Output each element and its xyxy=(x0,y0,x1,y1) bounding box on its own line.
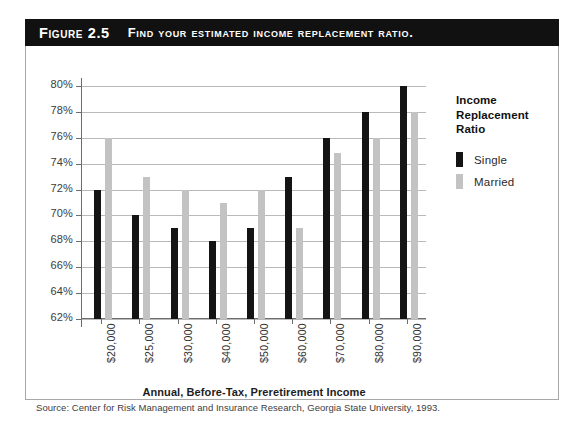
source-note: Source: Center for Risk Management and I… xyxy=(36,402,440,413)
x-tick-label: $80,000 xyxy=(373,323,385,363)
legend-swatch-married xyxy=(456,174,463,189)
y-axis-tick xyxy=(76,138,82,139)
bar-single xyxy=(285,177,292,319)
figure-number-label: Figure 2.5 xyxy=(39,25,110,41)
chart-plot-area: 80%78%76%74%72%70%68%66%64%62% $20,000$2… xyxy=(82,86,426,319)
chart-legend: Income Replacement Ratio SingleMarried xyxy=(456,93,556,193)
y-axis-tick xyxy=(76,190,82,191)
legend-title-line-2: Replacement xyxy=(456,108,556,123)
x-axis-tick xyxy=(101,319,102,324)
gridline-80: 80% xyxy=(82,86,426,87)
x-tick-label: $20,000 xyxy=(105,323,117,363)
x-axis-tick xyxy=(139,319,140,324)
x-axis-tick xyxy=(178,319,179,324)
legend-item-married: Married xyxy=(456,171,556,193)
legend-title-line-1: Income xyxy=(456,93,556,108)
x-axis-tick xyxy=(369,319,370,324)
bar-single xyxy=(362,112,369,319)
figure-container: Figure 2.5 Find your estimated income re… xyxy=(25,19,559,400)
bar-single xyxy=(171,228,178,319)
y-axis-tick xyxy=(76,164,82,165)
y-tick-label: 76% xyxy=(50,130,73,142)
y-tick-label: 68% xyxy=(50,233,73,245)
x-tick-label: $60,000 xyxy=(296,323,308,363)
bar-married xyxy=(182,190,189,319)
bar-married xyxy=(296,228,303,319)
bar-married xyxy=(105,138,112,319)
x-tick-label: $25,000 xyxy=(143,323,155,363)
bar-single xyxy=(132,215,139,319)
legend-swatch-single xyxy=(456,152,463,167)
figure-body: 80%78%76%74%72%70%68%66%64%62% $20,000$2… xyxy=(25,46,559,400)
bar-single xyxy=(209,241,216,319)
x-axis-tick xyxy=(216,319,217,324)
bar-single xyxy=(94,190,101,319)
bar-married xyxy=(220,203,227,320)
bar-married xyxy=(411,112,418,319)
legend-item-single: Single xyxy=(456,149,556,171)
x-tick-label: $70,000 xyxy=(334,323,346,363)
legend-label-single: Single xyxy=(474,154,507,166)
y-tick-label: 74% xyxy=(50,156,73,168)
bar-married xyxy=(258,190,265,319)
y-axis-tick xyxy=(76,293,82,294)
bar-single xyxy=(323,138,330,319)
y-tick-label: 80% xyxy=(50,78,73,90)
legend-title: Income Replacement Ratio xyxy=(456,93,556,137)
y-tick-label: 64% xyxy=(50,285,73,297)
x-axis-title: Annual, Before-Tax, Preretirement Income xyxy=(82,386,426,398)
y-axis-line xyxy=(81,78,82,327)
x-tick-label: $90,000 xyxy=(411,323,423,363)
bar-single xyxy=(400,86,407,319)
legend-label-married: Married xyxy=(474,176,514,188)
y-tick-label: 66% xyxy=(50,259,73,271)
x-axis-tick xyxy=(407,319,408,324)
x-tick-label: $30,000 xyxy=(182,323,194,363)
legend-title-line-3: Ratio xyxy=(456,122,556,137)
bar-single xyxy=(247,228,254,319)
y-axis-tick xyxy=(76,215,82,216)
bar-married xyxy=(373,138,380,319)
y-axis-tick xyxy=(76,112,82,113)
bar-married xyxy=(334,153,341,319)
y-axis-tick xyxy=(76,86,82,87)
gridline-78: 78% xyxy=(82,112,426,113)
y-axis-tick xyxy=(76,267,82,268)
figure-title-text: Find your estimated income replacement r… xyxy=(128,25,414,40)
y-tick-label: 78% xyxy=(50,104,73,116)
x-tick-label: $40,000 xyxy=(220,323,232,363)
y-axis-tick xyxy=(76,319,82,320)
x-axis-tick xyxy=(254,319,255,324)
y-tick-label: 62% xyxy=(50,311,73,323)
y-axis-tick xyxy=(76,241,82,242)
y-tick-label: 72% xyxy=(50,182,73,194)
legend-items: SingleMarried xyxy=(456,149,556,193)
figure-title-bar: Figure 2.5 Find your estimated income re… xyxy=(25,19,559,46)
x-tick-label: $50,000 xyxy=(258,323,270,363)
y-tick-label: 70% xyxy=(50,207,73,219)
bar-married xyxy=(143,177,150,319)
x-axis-tick xyxy=(330,319,331,324)
x-axis-tick xyxy=(292,319,293,324)
